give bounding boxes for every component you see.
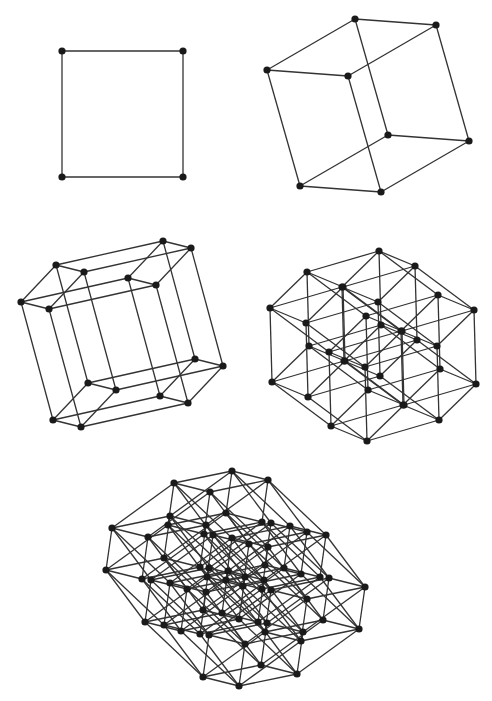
vertex bbox=[435, 416, 442, 423]
vertex bbox=[363, 437, 370, 444]
vertex bbox=[411, 262, 418, 269]
vertex bbox=[77, 423, 84, 430]
vertex bbox=[433, 342, 440, 349]
vertex bbox=[203, 573, 210, 580]
vertex bbox=[286, 522, 293, 529]
edge bbox=[438, 295, 440, 369]
vertex bbox=[470, 306, 477, 313]
vertex bbox=[183, 585, 190, 592]
hypercube-projections-diagram bbox=[0, 0, 492, 701]
vertex bbox=[263, 619, 270, 626]
vertex bbox=[222, 576, 229, 583]
edge bbox=[268, 480, 326, 535]
vertex bbox=[268, 378, 275, 385]
panel-penteract-5d bbox=[266, 247, 479, 444]
vertex bbox=[17, 298, 24, 305]
vertex bbox=[200, 530, 207, 537]
vertex bbox=[339, 283, 346, 290]
vertex bbox=[260, 576, 267, 583]
vertex bbox=[235, 682, 242, 689]
vertex bbox=[296, 182, 303, 189]
vertex bbox=[218, 609, 225, 616]
vertex bbox=[170, 479, 177, 486]
vertex bbox=[361, 583, 368, 590]
edge bbox=[21, 302, 53, 420]
vertex bbox=[159, 237, 166, 244]
vertex bbox=[49, 416, 56, 423]
edge bbox=[84, 272, 116, 390]
vertex bbox=[261, 561, 268, 568]
edge bbox=[267, 19, 355, 70]
vertex bbox=[341, 357, 348, 364]
edge bbox=[81, 403, 188, 427]
vertex bbox=[322, 531, 329, 538]
vertex bbox=[239, 582, 246, 589]
vertex bbox=[152, 281, 159, 288]
vertex bbox=[202, 588, 209, 595]
edge bbox=[56, 265, 88, 383]
edge bbox=[88, 383, 116, 390]
edge bbox=[307, 272, 309, 346]
edge bbox=[348, 25, 436, 76]
vertex bbox=[222, 509, 229, 516]
vertex bbox=[258, 585, 265, 592]
vertex bbox=[166, 579, 173, 586]
vertex bbox=[297, 570, 304, 577]
panel-square-2d bbox=[58, 47, 186, 180]
vertex bbox=[355, 625, 362, 632]
vertex bbox=[209, 531, 216, 538]
edge bbox=[271, 523, 329, 578]
vertex bbox=[377, 321, 384, 328]
vertex bbox=[219, 362, 226, 369]
vertex bbox=[264, 543, 271, 550]
edge bbox=[163, 241, 195, 359]
vertex bbox=[166, 512, 173, 519]
vertex bbox=[362, 312, 369, 319]
vertex bbox=[187, 244, 194, 251]
vertex bbox=[196, 630, 203, 637]
vertex bbox=[58, 47, 65, 54]
edge bbox=[188, 366, 223, 403]
vertex bbox=[160, 621, 167, 628]
vertex bbox=[108, 524, 115, 531]
edge bbox=[267, 70, 300, 186]
edge bbox=[272, 382, 331, 426]
edge bbox=[267, 70, 348, 76]
vertex bbox=[199, 606, 206, 613]
vertex bbox=[224, 567, 231, 574]
edge bbox=[388, 135, 469, 141]
vertex bbox=[374, 298, 381, 305]
vertex bbox=[138, 575, 145, 582]
vertex bbox=[302, 319, 309, 326]
vertex bbox=[325, 348, 332, 355]
vertex bbox=[160, 554, 167, 561]
vertex bbox=[58, 173, 65, 180]
edge bbox=[81, 390, 116, 427]
vertex bbox=[228, 467, 235, 474]
vertex bbox=[465, 137, 472, 144]
vertex bbox=[400, 401, 407, 408]
panel-tesseract-4d bbox=[17, 237, 226, 430]
vertex bbox=[205, 631, 212, 638]
edge bbox=[195, 359, 223, 366]
vertex bbox=[52, 261, 59, 268]
vertex bbox=[199, 673, 206, 680]
vertex bbox=[293, 670, 300, 677]
edge bbox=[56, 241, 163, 265]
edge bbox=[49, 309, 81, 427]
vertex bbox=[436, 365, 443, 372]
vertex bbox=[177, 627, 184, 634]
edge bbox=[191, 248, 223, 366]
edge bbox=[355, 19, 436, 25]
vertex bbox=[375, 247, 382, 254]
vertex bbox=[432, 21, 439, 28]
vertex bbox=[80, 268, 87, 275]
edge bbox=[21, 302, 49, 309]
vertex bbox=[196, 563, 203, 570]
vertex bbox=[297, 637, 304, 644]
vertex bbox=[305, 342, 312, 349]
vertex bbox=[102, 566, 109, 573]
edge bbox=[128, 278, 160, 396]
vertex bbox=[303, 595, 310, 602]
vertex bbox=[299, 628, 306, 635]
